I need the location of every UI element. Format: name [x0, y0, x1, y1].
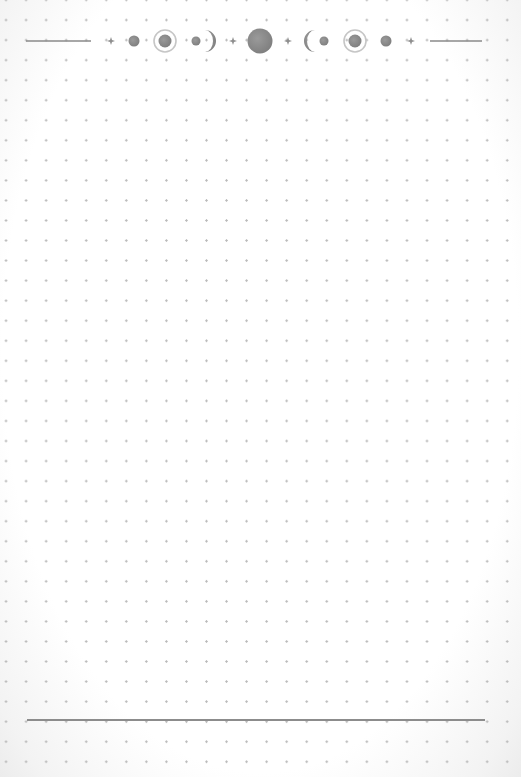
small-moon-dot-icon	[192, 37, 201, 46]
moon-phase-decoration-icon	[0, 24, 521, 60]
moon-dot-icon	[129, 36, 140, 47]
footer-rule	[27, 719, 485, 721]
sparkle-icon	[407, 37, 415, 45]
dot-grid	[0, 0, 521, 777]
ringed-moon-icon	[344, 30, 366, 52]
notebook-page	[0, 0, 521, 777]
sparkle-icon	[284, 37, 292, 45]
sparkle-icon	[229, 37, 237, 45]
moon-dot-icon	[381, 36, 392, 47]
ringed-moon-icon	[154, 30, 176, 52]
full-moon-icon	[248, 29, 273, 54]
waning-crescent-icon	[304, 30, 315, 52]
sparkle-icon	[107, 37, 115, 45]
waxing-crescent-icon	[205, 30, 216, 52]
moon-phase-header	[0, 24, 521, 60]
small-moon-dot-icon	[320, 37, 329, 46]
